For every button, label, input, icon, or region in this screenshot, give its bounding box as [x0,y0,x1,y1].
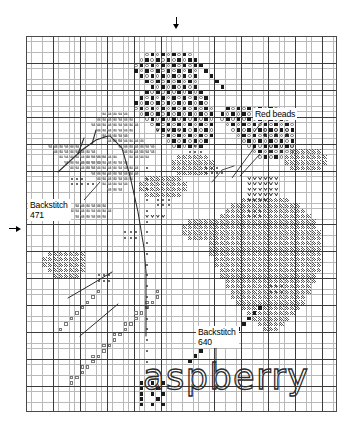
stitch-cell [177,68,182,73]
stitch-cell [252,278,257,283]
stitch-cell [69,251,74,256]
stitch-cell [317,230,322,235]
stitch-cell [171,192,176,197]
stitch-cell [161,198,166,203]
leader-line-red-beads [232,122,262,178]
stitch-cell [263,144,268,149]
stitch-cell [263,284,268,289]
stitch-cell [58,149,63,154]
stitch-cell [188,230,193,235]
stitch-cell [258,122,263,127]
stitch-cell [214,241,219,246]
stitch-cell [231,262,236,267]
backstitch-overlay [26,36,337,412]
stitch-cell [74,144,79,149]
stitch-cell [247,192,252,197]
stitch-cell [225,208,230,213]
stitch-cell [171,68,176,73]
stitch-cell [188,84,193,89]
stitch-cell [177,138,182,143]
stitch-cell [74,311,79,316]
stitch-cell [252,214,257,219]
stitch-cell [193,90,198,95]
stitch-cell [177,74,182,79]
stitch-cell [188,106,193,111]
stitch-cell [91,122,96,127]
stitch-cell [112,138,117,143]
stitch-cell [236,214,241,219]
stitch-cell [96,214,101,219]
stitch-cell [177,63,182,68]
stitch-cell [139,58,144,63]
stitch-cell [128,117,133,122]
stitch-cell [134,138,139,143]
stitch-cell [80,176,85,181]
stitch-cell [252,133,257,138]
stitch-cell [198,101,203,106]
stitch-cell [128,165,133,170]
stitch-cell [236,284,241,289]
stitch-cell [258,241,263,246]
stitch-cell [252,257,257,262]
stitch-cell [150,117,155,122]
stitch-cell [182,187,187,192]
stitch-cell [231,294,236,299]
stitch-cell [258,198,263,203]
stitch-cell [268,203,273,208]
stitch-cell [161,122,166,127]
stitch-cell [182,111,187,116]
stitch-cell [284,257,289,262]
stitch-cell [161,74,166,79]
stitch-cell [96,154,101,159]
stitch-cell [139,95,144,100]
stitch-cell [182,165,187,170]
stitch-cell [263,154,268,159]
stitch-cell [231,106,236,111]
stitch-cell [91,160,96,165]
stitch-cell [188,144,193,149]
stitch-cell [236,219,241,224]
stitch-cell [58,144,63,149]
stitch-cell [155,176,160,181]
stitch-cell [144,176,149,181]
stitch-cell [241,106,246,111]
stitch-cell [64,321,69,326]
stitch-cell [241,305,246,310]
stitch-cell [112,176,117,181]
stitch-cell [171,144,176,149]
stitch-cell [252,273,257,278]
stitch-cell [74,208,79,213]
stitch-cell [198,95,203,100]
stitch-cell [284,273,289,278]
label-backstitch-640-line2: 640 [198,337,236,347]
stitch-cell [263,235,268,240]
stitch-cell [96,128,101,133]
stitch-cell [268,273,273,278]
stitch-cell [258,251,263,256]
stitch-cell [258,321,263,326]
stitch-cell [139,187,144,192]
stitch-cell [209,122,214,127]
stitch-cell [74,251,79,256]
stitch-cell [274,219,279,224]
stitch-cell [209,219,214,224]
stitch-cell [241,262,246,267]
stitch-cell [118,176,123,181]
stitch-cell [171,128,176,133]
stitch-cell [193,230,198,235]
stitch-cell [306,257,311,262]
stitch-cell [177,58,182,63]
stitch-cell [247,138,252,143]
stitch-cell [236,278,241,283]
stitch-cell [144,79,149,84]
stitch-cell [166,117,171,122]
stitch-cell [252,268,257,273]
stitch-cell [166,203,171,208]
stitch-cell [188,117,193,122]
stitch-cell [166,84,171,89]
stitch-cell [268,257,273,262]
stitch-cell [139,101,144,106]
stitch-cell [166,52,171,57]
stitch-cell [220,111,225,116]
stitch-cell [241,224,246,229]
